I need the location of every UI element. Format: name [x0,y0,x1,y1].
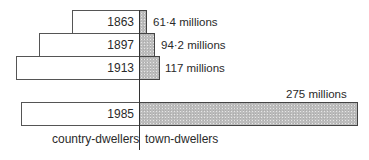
value-label-1913: 117 millions [165,62,225,74]
year-label-1897: 1897 [90,38,134,52]
value-label-1863: 61·4 millions [153,16,218,28]
country-dwellers-label: country-dwellers [52,132,139,146]
year-label-1913: 1913 [90,61,134,75]
center-divider-line [139,10,140,150]
town-bar-1897 [139,33,155,57]
year-label-1863: 1863 [90,15,134,29]
year-label-1985: 1985 [90,107,134,121]
town-bar-1863 [139,10,147,34]
town-bar-1985 [139,102,358,126]
town-dwellers-label: town-dwellers [145,132,218,146]
value-label-1897: 94·2 millions [161,39,226,51]
value-label-1985: 275 millions [286,88,347,100]
town-bar-1913 [139,56,160,80]
